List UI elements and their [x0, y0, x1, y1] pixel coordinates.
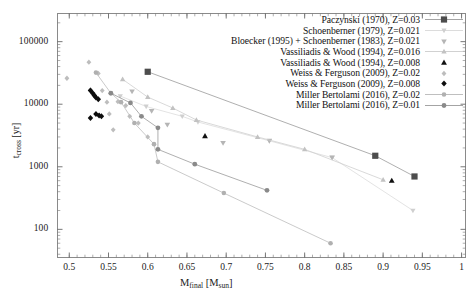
- legend-item-label: Paczynski (1970), Z=0.03: [321, 14, 424, 25]
- y-tick-label: 100: [0, 223, 49, 233]
- legend-item[interactable]: Vassiliadis & Wood (1994), Z=0.016: [188, 46, 464, 57]
- y-axis-label-sub: cross: [14, 140, 23, 155]
- legend-item-label: Vassiliadis & Wood (1994), Z=0.008: [280, 57, 424, 68]
- data-point: [65, 76, 70, 81]
- data-point: [107, 111, 112, 116]
- x-axis-label-unit-end: ]: [229, 277, 233, 288]
- data-point: [120, 77, 125, 82]
- legend-marker: [441, 60, 447, 65]
- data-point: [202, 133, 208, 138]
- legend-item[interactable]: Paczynski (1970), Z=0.03: [188, 14, 464, 25]
- legend-item-label: Weiss & Ferguson (2009), Z=0.008: [285, 78, 424, 89]
- data-point: [220, 141, 226, 146]
- x-tick-label: 0.65: [165, 262, 209, 272]
- data-point: [410, 209, 415, 214]
- x-tick-label: 0.75: [243, 262, 287, 272]
- legend-marker: [442, 103, 447, 108]
- data-point: [94, 70, 99, 75]
- x-tick-label: 0.6: [126, 262, 170, 272]
- data-point: [165, 123, 171, 128]
- data-point: [108, 91, 113, 96]
- data-point: [192, 162, 197, 167]
- legend-item[interactable]: Schoenberner (1979), Z=0.021: [188, 25, 464, 36]
- legend-marker: [441, 17, 447, 23]
- legend-item-marker: [424, 68, 464, 78]
- legend-item-marker: [424, 100, 464, 110]
- legend-item-marker: [424, 25, 464, 35]
- data-point: [411, 173, 417, 179]
- x-tick-label: 0.85: [322, 262, 366, 272]
- data-point: [156, 125, 161, 130]
- legend-item-marker: [424, 78, 464, 88]
- data-point: [389, 178, 395, 183]
- legend-item-label: Schoenberner (1979), Z=0.021: [303, 25, 424, 36]
- x-tick-label: 1: [440, 262, 476, 272]
- y-tick-label: 1000: [0, 161, 49, 171]
- x-axis-label-unit-sub: sun: [219, 281, 229, 290]
- data-point: [145, 94, 150, 99]
- data-series: [202, 133, 395, 183]
- legend-item[interactable]: Weiss & Ferguson (2009), Z=0.02: [188, 67, 464, 78]
- x-tick-label: 0.7: [204, 262, 248, 272]
- y-axis-label-main: t: [10, 156, 21, 159]
- x-axis-label-sub: final: [189, 281, 203, 290]
- x-axis-label-main: M: [180, 277, 189, 288]
- data-point: [328, 241, 333, 246]
- data-point: [105, 99, 110, 104]
- legend-item-label: Miller Bertolami (2016), Z=0.02: [296, 89, 424, 100]
- y-axis-label-unit: [yr]: [10, 123, 21, 138]
- legend-item-label: Vassiliadis & Wood (1994), Z=0.016: [280, 46, 424, 57]
- legend-item-label: Miller Bertolami (2016), Z=0.01: [296, 99, 424, 110]
- y-tick-label: 10000: [0, 98, 49, 108]
- legend: Paczynski (1970), Z=0.03Schoenberner (19…: [188, 14, 464, 110]
- figure-root: 100000100001000100 0.50.550.60.650.70.75…: [0, 0, 476, 297]
- data-point: [145, 69, 151, 75]
- data-point: [132, 121, 137, 126]
- x-tick-label: 0.8: [283, 262, 327, 272]
- data-point: [156, 147, 161, 152]
- legend-item-label: Weiss & Ferguson (2009), Z=0.02: [290, 67, 424, 78]
- legend-item[interactable]: Weiss & Ferguson (2009), Z=0.008: [188, 78, 464, 89]
- x-axis-label-unit: [M: [206, 277, 219, 288]
- data-point: [129, 89, 135, 94]
- data-point: [149, 109, 155, 114]
- data-point: [222, 191, 227, 196]
- legend-item-marker: [424, 14, 464, 24]
- legend-item[interactable]: Vassiliadis & Wood (1994), Z=0.008: [188, 57, 464, 68]
- data-point: [88, 115, 93, 121]
- legend-item-marker: [424, 46, 464, 56]
- data-point: [86, 60, 91, 65]
- legend-item-marker: [424, 89, 464, 99]
- x-tick-label: 0.55: [87, 262, 131, 272]
- legend-marker: [441, 39, 447, 44]
- data-point: [372, 153, 378, 159]
- legend-marker: [441, 81, 446, 87]
- data-point: [139, 114, 144, 119]
- x-tick-label: 0.5: [47, 262, 91, 272]
- data-point: [265, 188, 270, 193]
- data-point: [194, 117, 199, 122]
- legend-item-marker: [424, 57, 464, 67]
- x-tick-label: 0.9: [361, 262, 405, 272]
- x-tick-label: 0.95: [400, 262, 444, 272]
- legend-marker: [442, 71, 447, 76]
- data-point: [152, 142, 157, 147]
- data-point: [156, 160, 161, 165]
- data-point: [128, 100, 133, 105]
- data-series: [118, 94, 416, 213]
- y-tick-label: 100000: [0, 36, 49, 46]
- legend-item[interactable]: Miller Bertolami (2016), Z=0.02: [188, 89, 464, 100]
- y-axis-label: tcross [yr]: [10, 106, 21, 176]
- x-axis-label: Mfinal [Msun]: [180, 277, 232, 288]
- data-point: [119, 100, 124, 105]
- data-point: [111, 127, 116, 132]
- legend-item[interactable]: Miller Bertolami (2016), Z=0.01: [188, 100, 464, 111]
- legend-marker: [442, 92, 447, 97]
- legend-item-label: Bloecker (1995) + Schoenberner (1983), Z…: [231, 35, 424, 46]
- legend-item[interactable]: Bloecker (1995) + Schoenberner (1983), Z…: [188, 35, 464, 46]
- data-series: [65, 60, 151, 140]
- data-point: [100, 88, 105, 93]
- legend-item-marker: [424, 36, 464, 46]
